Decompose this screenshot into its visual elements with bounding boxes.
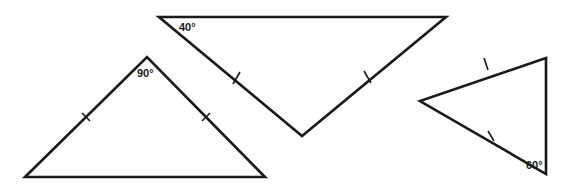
- triangle-middle: 40°: [159, 17, 446, 136]
- tick-mark-upper-side: [484, 58, 488, 70]
- angle-label-60: 60°: [526, 159, 543, 171]
- triangle-middle-outline: [159, 17, 446, 136]
- triangle-right-outline: [420, 58, 546, 174]
- triangles-diagram: 90° 40° 60°: [0, 0, 563, 191]
- triangle-right: 60°: [420, 58, 546, 174]
- angle-label-90: 90°: [137, 67, 154, 79]
- angle-label-40: 40°: [179, 21, 196, 33]
